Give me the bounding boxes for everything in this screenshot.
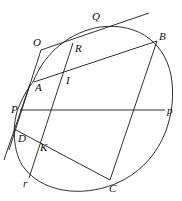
label-i: I [65,74,71,86]
label-d: D [17,132,26,144]
chord-dc [16,130,110,180]
label-r-upper: R [74,42,82,54]
label-o: O [33,36,41,48]
label-c: C [109,182,117,194]
label-k: K [39,141,48,153]
label-a: A [34,81,42,93]
chord-ab [34,41,157,82]
label-p-upper: P [10,103,18,115]
label-r-lower: r [23,177,28,189]
line-r-r [29,43,73,178]
label-b: B [159,30,166,42]
label-q: Q [92,10,100,22]
tangent-line-p [4,84,30,160]
conic-diagram: O Q R B A I P p D K C r [0,0,182,201]
label-p-lower: p [166,104,173,116]
ellipse-curve [14,26,172,191]
